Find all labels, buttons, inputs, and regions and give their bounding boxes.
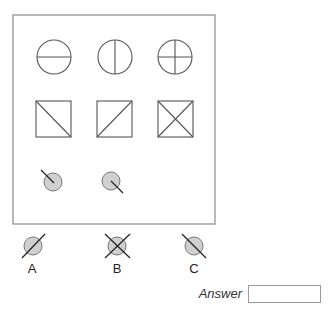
option-a-figure-icon <box>22 234 45 258</box>
shaded-circle-upper-left-line-icon <box>41 170 62 191</box>
option-c-label[interactable]: C <box>189 261 198 276</box>
square-slash-icon <box>97 101 132 137</box>
puzzle-figure <box>0 0 333 319</box>
circle-horizontal-line-icon <box>37 40 71 74</box>
circle-vertical-line-icon <box>98 40 132 74</box>
square-backslash-icon <box>36 101 71 137</box>
option-c-figure-icon <box>182 234 206 258</box>
option-a-label[interactable]: A <box>28 261 37 276</box>
circle-cross-icon <box>158 40 192 74</box>
shaded-circle-lower-right-line-icon <box>102 172 123 193</box>
answer-label: Answer <box>190 286 242 301</box>
answer-input[interactable] <box>248 285 321 303</box>
option-b-figure-icon <box>105 234 130 258</box>
option-b-label[interactable]: B <box>113 261 122 276</box>
square-x-icon <box>158 101 193 137</box>
